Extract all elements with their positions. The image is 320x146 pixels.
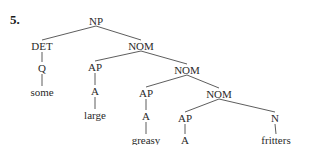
edge-nom2-ap2 — [146, 75, 187, 87]
node-nom1: NOM — [128, 41, 154, 52]
edge-nom1-nom2 — [141, 51, 187, 64]
edge-nom3-n — [219, 99, 275, 112]
node-det: DET — [31, 41, 52, 52]
word-w_greasy: greasy — [132, 135, 161, 146]
node-a2: A — [142, 111, 150, 122]
node-n: N — [271, 113, 279, 124]
edge-nom3-ap3 — [185, 99, 219, 112]
node-ap3: AP — [178, 113, 192, 124]
edge-n-w_fritters — [275, 124, 276, 134]
node-np: NP — [89, 16, 103, 27]
node-nom3: NOM — [206, 89, 232, 100]
word-w_large: large — [84, 110, 106, 121]
node-ap1: AP — [88, 62, 102, 73]
node-q: Q — [38, 63, 46, 74]
edge-np-det — [42, 26, 96, 40]
word-w_some: some — [30, 87, 53, 98]
edge-nom2-nom3 — [187, 75, 219, 88]
edge-nom1-ap1 — [95, 51, 141, 61]
node-a1: A — [91, 86, 99, 97]
node-a3: A — [181, 135, 189, 146]
node-ap2: AP — [139, 88, 153, 99]
word-w_fritters: fritters — [261, 135, 290, 146]
edge-np-nom1 — [96, 26, 141, 40]
node-nom2: NOM — [174, 65, 200, 76]
